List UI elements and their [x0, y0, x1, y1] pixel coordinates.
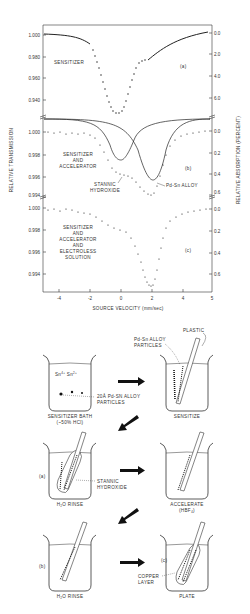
- y-tick: 1.000: [29, 33, 41, 38]
- panel-c-label: SENSITIZER: [63, 225, 93, 230]
- y-tick-labels-left: 1.000 0.980 0.960 0.940 1.000 0.998 0.99…: [29, 33, 41, 277]
- y-tick-right: 0.6: [214, 272, 221, 277]
- panel-b-label: ACCELERATOR: [59, 164, 97, 169]
- chart: 1.000 0.980 0.960 0.940 1.000 0.998 0.99…: [9, 25, 241, 311]
- plastic-label: PLASTIC: [183, 328, 205, 333]
- panel-a-tag: (a): [180, 64, 187, 69]
- y-tick: 0.940: [29, 98, 41, 103]
- y-tick: 0.996: [29, 175, 41, 180]
- panel-c-label: ACCELERATOR: [59, 237, 97, 242]
- step-caption: H₂O RINSE: [57, 594, 84, 599]
- mossbauer-figure: 1.000 0.980 0.960 0.940 1.000 0.998 0.99…: [0, 0, 250, 614]
- y-tick-right: 0.0: [214, 31, 221, 36]
- step-caption: (HBF₄): [179, 508, 195, 513]
- arrow-right-icon: [120, 466, 145, 475]
- step-caption: SENSITIZE: [174, 414, 200, 419]
- panel-c-label: AND: [73, 243, 84, 248]
- panel-b-series: SENSITIZER AND ACCELERATOR (b) STANNIC H…: [44, 119, 210, 196]
- x-tick: 2: [151, 296, 154, 301]
- step-caption: ACCELERATE: [170, 502, 203, 507]
- y-tick-right: 0.2: [214, 151, 221, 156]
- arrow-right-icon: [118, 377, 145, 386]
- y-tick: 0.980: [29, 55, 41, 60]
- arrow-diagonal-icon: [118, 508, 139, 524]
- step-caption: H₂O RINSE: [57, 502, 84, 507]
- step-h2o-rinse-a: (a) STANNIC HYDROXIDE H₂O RINSE: [39, 432, 127, 507]
- panel-c-tag: (c): [185, 248, 191, 253]
- step-caption: PLATE: [179, 594, 195, 599]
- panel-a-series: SENSITIZER (a): [44, 32, 208, 114]
- y-tick-right: 0.4: [214, 251, 221, 256]
- x-tick-labels: -4 -2 0 2 4 5: [57, 296, 214, 301]
- y-tick: 0.998: [29, 153, 41, 158]
- y-axis-label: RELATIVE TRANSMISSION: [9, 128, 14, 192]
- bath-particles-note: PARTICLES: [97, 400, 125, 405]
- panel-a-label: SENSITIZER: [54, 60, 84, 65]
- step-plate: (c) COPPER LAYER PLATE: [138, 522, 213, 599]
- x-tick: -2: [88, 296, 93, 301]
- x-tick: 4: [182, 296, 185, 301]
- x-ticks: [59, 289, 183, 292]
- stannic-diagram-label: HYDROXIDE: [97, 485, 127, 490]
- tin-ions: Sn4+ Sn2+: [55, 371, 77, 377]
- y-tick: 0.996: [29, 250, 41, 255]
- bath-particles-note: 20Å Pd-SN ALLOY: [97, 393, 140, 399]
- right-ticks: [209, 33, 212, 274]
- panel-b-label: SENSITIZER: [63, 152, 93, 157]
- y-tick-right: 0.0: [214, 207, 221, 212]
- arrow-diagonal-icon: [118, 415, 139, 431]
- x-tick: -4: [57, 296, 62, 301]
- stannic-diagram-label: STANNIC: [97, 479, 119, 484]
- step-h2o-rinse-b: (b) H₂O RINSE: [39, 522, 96, 599]
- x-axis-label: SOURCE VELOCITY (mm/sec): [92, 306, 163, 311]
- panel-c-label: SOLUTION: [65, 255, 91, 260]
- left-ticks: [43, 35, 46, 274]
- panel-c-label: AND: [73, 231, 84, 236]
- pdsn-particles-label: Pd-Sn ALLOY: [134, 337, 166, 342]
- x-tick: 0: [120, 296, 123, 301]
- step-caption: SENSITIZER BATH: [48, 414, 93, 419]
- step-sensitize: PLASTIC Pd-Sn ALLOY PARTICLES SENSITIZE: [134, 328, 213, 419]
- pdsn-alloy-label: Pd-Sn ALLOY: [166, 183, 198, 188]
- pdsn-particles-label: PARTICLES: [134, 343, 162, 348]
- step-caption: (~50% HCl): [57, 420, 84, 425]
- arrow-right-icon: [120, 558, 145, 567]
- y-tick: 0.994: [29, 272, 41, 277]
- step-sensitizer-bath: Sn4+ Sn2+ 20Å Pd-SN ALLOY PARTICLES SENS…: [43, 355, 140, 425]
- rinse-a-tag: (a): [39, 474, 46, 479]
- y-tick-right: 4.0: [214, 74, 221, 79]
- step-accelerate: ACCELERATE (HBF₄): [160, 432, 213, 513]
- y-tick: 1.000: [29, 130, 41, 135]
- y-tick: 0.994: [29, 193, 41, 198]
- panel-b-label: AND: [73, 158, 84, 163]
- y-tick-right: 0.4: [214, 172, 221, 177]
- y-tick-right: 6.0: [214, 96, 221, 101]
- y-tick: 0.998: [29, 228, 41, 233]
- y-axis-label-right: RELATIVE ABSORPTION (PERCENT): [236, 116, 241, 204]
- panel-c-series: SENSITIZER AND ACCELERATOR AND ELECTROLE…: [47, 208, 206, 286]
- copper-layer-label: LAYER: [138, 580, 155, 585]
- stannic-hydroxide-label: STANNIC: [94, 182, 116, 187]
- copper-layer-label: COPPER: [138, 574, 160, 579]
- y-tick-right: 0.2: [214, 229, 221, 234]
- stannic-hydroxide-label: HYDROXIDE: [90, 188, 120, 193]
- rinse-b-tag: (b): [39, 564, 46, 569]
- plate-tag: (c): [161, 558, 167, 563]
- y-tick: 1.000: [29, 206, 41, 211]
- y-tick-right: 2.0: [214, 52, 221, 57]
- y-tick-right: 0.6: [214, 190, 221, 195]
- process-diagram: Sn4+ Sn2+ 20Å Pd-SN ALLOY PARTICLES SENS…: [39, 328, 213, 599]
- y-tick-labels-right: 0.0 2.0 4.0 6.0 0.0 0.2 0.4 0.6 0.0 0.2 …: [214, 31, 221, 277]
- y-tick-right: 0.0: [214, 129, 221, 134]
- x-tick: 5: [211, 296, 214, 301]
- panel-b-tag: (b): [185, 166, 192, 171]
- panel-c-label: ELECTROLESS: [60, 249, 97, 254]
- y-tick: 0.960: [29, 76, 41, 81]
